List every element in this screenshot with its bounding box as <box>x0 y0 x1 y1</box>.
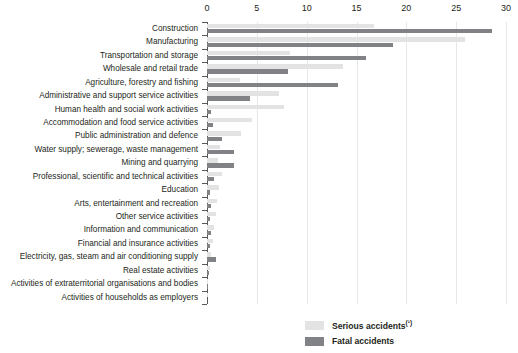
category-label: Arts, entertainment and recreation <box>74 197 198 211</box>
bar-serious <box>207 131 241 135</box>
bar-fatal <box>207 83 338 87</box>
bar-fatal <box>207 110 211 114</box>
bar-group <box>207 250 506 263</box>
bar-serious <box>207 252 211 256</box>
bar-serious <box>207 266 210 270</box>
bar-group <box>207 62 506 75</box>
fatal-swatch-icon <box>305 337 324 346</box>
x-axis-tick-label: 5 <box>254 3 259 13</box>
x-axis-tick-label: 20 <box>401 3 411 13</box>
serious-swatch-icon <box>305 321 324 330</box>
category-tick <box>202 197 207 198</box>
category-label: Public administration and defence <box>75 129 198 143</box>
x-axis-tick-label: 30 <box>501 3 511 13</box>
chart-container: 051015202530 ConstructionManufacturingTr… <box>0 0 518 353</box>
bar-fatal <box>207 257 216 261</box>
bar-group <box>207 156 506 169</box>
legend-label-fatal: Fatal accidents <box>332 336 394 346</box>
category-label: Professional, scientific and technical a… <box>33 170 198 184</box>
category-label: Human health and social work activities <box>55 103 198 117</box>
bar-group <box>207 116 506 129</box>
bar-serious <box>207 37 465 41</box>
category-label: Manufacturing <box>146 35 198 49</box>
bar-serious <box>207 51 290 55</box>
bar-serious <box>207 118 252 122</box>
bar-serious <box>207 105 284 109</box>
legend-label-serious: Serious accidents(¹) <box>332 319 412 331</box>
category-tick <box>202 237 207 238</box>
bar-group <box>207 143 506 156</box>
category-label: Agriculture, forestry and fishing <box>85 76 198 90</box>
bar-fatal <box>207 123 213 127</box>
bar-group <box>207 197 506 210</box>
category-tick <box>202 264 207 265</box>
category-tick <box>202 170 207 171</box>
bar-group <box>207 223 506 236</box>
bar-group <box>207 129 506 142</box>
bar-fatal <box>207 137 222 141</box>
bar-group <box>207 35 506 48</box>
bar-serious <box>207 225 214 229</box>
category-label: Mining and quarrying <box>122 156 198 170</box>
category-tick <box>202 143 207 144</box>
bar-fatal <box>207 150 234 154</box>
category-label: Water supply; sewerage, waste management <box>34 143 198 157</box>
bar-group <box>207 22 506 35</box>
bar-group <box>207 210 506 223</box>
legend-item-serious: Serious accidents(¹) <box>305 318 515 332</box>
category-tick <box>202 76 207 77</box>
bar-fatal <box>207 96 250 100</box>
category-label: Education <box>162 183 198 197</box>
category-axis-labels: ConstructionManufacturingTransportation … <box>0 22 203 304</box>
gridline <box>506 22 507 304</box>
bar-serious <box>207 91 279 95</box>
bar-serious <box>207 158 218 162</box>
bar-group <box>207 237 506 250</box>
bar-fatal <box>207 29 492 33</box>
bar-serious <box>207 239 213 243</box>
bar-group <box>207 264 506 277</box>
bar-serious <box>207 279 208 283</box>
bar-serious <box>207 64 343 68</box>
bar-group <box>207 103 506 116</box>
bar-fatal <box>207 163 234 167</box>
category-label: Other service activities <box>116 210 198 224</box>
category-tick <box>202 156 207 157</box>
bar-fatal <box>207 231 211 235</box>
bar-fatal <box>207 217 210 221</box>
category-label: Activities of households as employers <box>61 291 198 305</box>
bar-group <box>207 183 506 196</box>
category-tick <box>202 291 207 292</box>
bar-serious <box>207 212 216 216</box>
x-axis-tick-label: 10 <box>302 3 312 13</box>
bar-fatal <box>207 56 366 60</box>
bar-group <box>207 277 506 290</box>
bar-serious <box>207 24 374 28</box>
category-tick <box>202 250 207 251</box>
bar-group <box>207 76 506 89</box>
category-label: Construction <box>152 22 198 36</box>
category-tick <box>202 89 207 90</box>
category-tick <box>202 210 207 211</box>
category-label: Transportation and storage <box>100 49 198 63</box>
category-tick <box>202 277 207 278</box>
category-tick <box>202 35 207 36</box>
x-axis-tick-label: 15 <box>351 3 361 13</box>
bar-fatal <box>207 204 211 208</box>
category-tick <box>202 116 207 117</box>
bar-rows <box>207 22 506 304</box>
category-label: Real estate activities <box>123 264 198 278</box>
category-label: Administrative and support service activ… <box>39 89 198 103</box>
category-label: Activities of extraterritorial organisat… <box>11 277 198 291</box>
bar-serious <box>207 78 240 82</box>
bar-serious <box>207 185 219 189</box>
category-label: Electricity, gas, steam and air conditio… <box>20 250 198 264</box>
category-tick <box>202 62 207 63</box>
bar-group <box>207 170 506 183</box>
category-label: Accommodation and food service activitie… <box>43 116 198 130</box>
bar-group <box>207 89 506 102</box>
bar-serious <box>207 172 222 176</box>
category-tick <box>202 49 207 50</box>
bar-fatal <box>207 271 209 275</box>
bar-fatal <box>207 43 393 47</box>
